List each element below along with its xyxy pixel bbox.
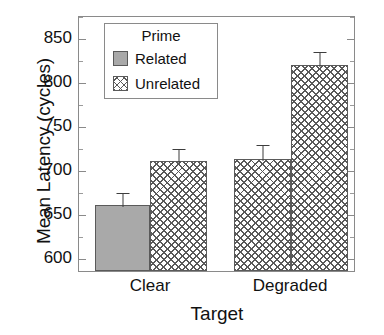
y-tick-label-750: 750 (24, 116, 72, 136)
error-bar-stem (262, 145, 263, 161)
y-tick-major-right-650 (347, 215, 354, 216)
y-tick-major-650 (79, 215, 86, 216)
y-tick-major-700 (79, 171, 86, 172)
y-tick-minor-675 (79, 193, 83, 194)
y-tick-minor-right-675 (350, 193, 354, 194)
legend-title: Prime (105, 27, 217, 44)
y-tick-minor-725 (79, 149, 83, 150)
y-tick-label-850: 850 (24, 28, 72, 48)
y-tick-minor-right-875 (350, 17, 354, 18)
y-tick-minor-625 (79, 237, 83, 238)
x-tick-label-clear: Clear (130, 276, 171, 296)
legend-swatch-unrelated-icon (113, 76, 128, 91)
bar-clear-unrelated (150, 161, 207, 271)
error-bar-degraded-unrelated (312, 52, 327, 67)
error-bar-degraded-related (255, 145, 270, 161)
y-tick-label-800: 800 (24, 72, 72, 92)
error-bar-stem (178, 149, 179, 163)
error-bar-clear-unrelated (171, 149, 186, 163)
y-tick-major-800 (79, 83, 86, 84)
error-bar-stem (122, 193, 123, 207)
error-bar-cap (116, 193, 129, 194)
error-bar-stem (319, 52, 320, 67)
legend-item-unrelated: Unrelated (113, 74, 200, 93)
x-tick-label-degraded: Degraded (253, 276, 328, 296)
y-tick-major-600 (79, 259, 86, 260)
bar-clear-related (95, 205, 150, 271)
y-tick-label-700: 700 (24, 160, 72, 180)
y-tick-major-right-600 (347, 259, 354, 260)
error-bar-clear-related (115, 193, 130, 207)
y-tick-major-right-850 (347, 39, 354, 40)
y-tick-major-750 (79, 127, 86, 128)
legend-swatch-related-icon (113, 51, 128, 66)
error-bar-cap (313, 52, 326, 53)
y-tick-minor-right-825 (350, 61, 354, 62)
y-tick-major-right-800 (347, 83, 354, 84)
y-tick-minor-right-625 (350, 237, 354, 238)
bar-degraded-related (234, 159, 291, 271)
x-axis-title: Target (78, 303, 356, 325)
y-axis-tick-labels: 850 800 750 700 650 600 (20, 16, 72, 272)
legend: Prime Related Unrelated (104, 23, 218, 99)
y-tick-minor-right-775 (350, 105, 354, 106)
y-tick-minor-875 (79, 17, 83, 18)
bar-degraded-unrelated (291, 65, 348, 271)
y-tick-label-650: 650 (24, 204, 72, 224)
y-tick-major-850 (79, 39, 86, 40)
legend-item-related: Related (113, 49, 187, 68)
y-tick-label-600: 600 (24, 248, 72, 268)
y-tick-minor-right-725 (350, 149, 354, 150)
bar-chart-figure: Mean Latency (cycles) 850 800 750 700 65… (0, 0, 384, 335)
error-bar-cap (256, 145, 269, 146)
legend-label-unrelated: Unrelated (135, 75, 200, 92)
y-tick-major-right-750 (347, 127, 354, 128)
y-tick-minor-775 (79, 105, 83, 106)
y-tick-major-right-700 (347, 171, 354, 172)
y-tick-minor-825 (79, 61, 83, 62)
error-bar-cap (172, 149, 185, 150)
legend-label-related: Related (135, 50, 187, 67)
